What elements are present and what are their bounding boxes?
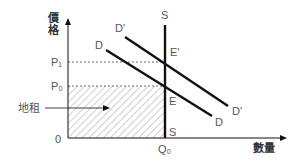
rent-label: 地租 <box>18 102 40 115</box>
p1-label: P₁ <box>51 56 62 68</box>
demand-label-start: D <box>95 39 103 51</box>
y-axis-arrow-icon <box>65 18 71 25</box>
q0-label: Q₀ <box>158 143 171 155</box>
x-axis-arrow-icon <box>280 135 287 141</box>
p0-label: P₀ <box>51 80 63 92</box>
supply-label-bottom: S <box>169 126 176 138</box>
y-axis-label-1: 價 <box>47 11 60 25</box>
rent-area <box>68 86 165 138</box>
origin-label: 0 <box>55 133 61 145</box>
x-axis-label: 數量 <box>253 141 275 155</box>
rent-diagram: 價 格 數量 0 P₁ P₀ Q₀ S S D D D' D' E' E 地租 <box>0 0 301 166</box>
demand-new-label-start: D' <box>115 22 125 34</box>
supply-label-top: S <box>161 9 168 21</box>
demand-new-label-end: D' <box>232 105 242 117</box>
y-axis-label-2: 格 <box>48 23 60 37</box>
point-e-prime-label: E' <box>170 46 179 58</box>
point-e-label: E <box>169 95 176 107</box>
demand-label-end: D <box>215 116 223 128</box>
